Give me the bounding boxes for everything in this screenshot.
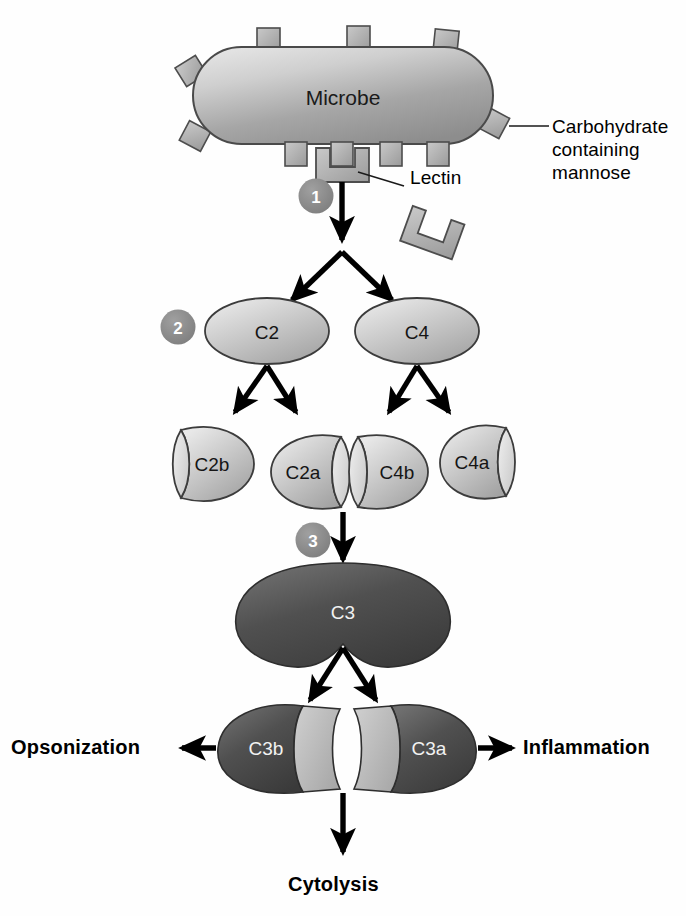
step-badge-1-label: 1: [311, 188, 320, 207]
c3-label: C3: [331, 602, 355, 623]
lectin-callout-label: Lectin: [410, 166, 461, 189]
fork-arrow-left: [292, 252, 342, 300]
c2b-group: C2b: [173, 427, 254, 501]
step-badge-3: 3: [296, 523, 331, 558]
lectin-free-shape: [400, 206, 464, 260]
carbohydrate-peg: [285, 142, 307, 166]
carbohydrate-callout-line2: containing: [552, 138, 640, 161]
cleavage-arrows: [235, 366, 449, 412]
c4-cleave-arrow-right: [417, 366, 449, 412]
step-badge-1: 1: [299, 179, 334, 214]
c3b-group: C3b: [218, 705, 340, 793]
c2-label: C2: [255, 322, 279, 343]
c4a-cut-face: [498, 428, 515, 496]
lectin-free-group: [400, 206, 464, 260]
step-badge-2: 2: [161, 310, 196, 345]
c4-label: C4: [405, 322, 430, 343]
c2-group: C2: [205, 298, 329, 364]
c2-cleave-arrow-left: [235, 366, 267, 412]
c2a-label: C2a: [286, 462, 321, 483]
c3a-group: C3a: [354, 705, 476, 793]
cytolysis-label: Cytolysis: [288, 873, 379, 896]
c3b-cut-face: [294, 706, 340, 792]
carbohydrate-peg: [427, 142, 449, 166]
inflammation-label: Inflammation: [523, 736, 650, 759]
carbohydrate-callout-line1: Carbohydrate: [552, 115, 668, 138]
diagram-canvas: Microbe 1: [0, 0, 686, 916]
microbe-group: Microbe: [175, 26, 510, 166]
c2a-group: C2a: [271, 435, 350, 509]
c4-group: C4: [355, 298, 479, 364]
c3a-cut-face: [354, 706, 400, 792]
carbohydrate-callout-line3: mannose: [552, 161, 631, 184]
c3a-label: C3a: [412, 738, 447, 759]
c4-cleave-arrow-left: [389, 366, 417, 412]
c2b-label: C2b: [195, 454, 230, 475]
c4a-group: C4a: [440, 426, 515, 499]
c2-cleave-arrow-right: [267, 366, 296, 412]
c3b-label: C3b: [249, 738, 284, 759]
opsonization-label: Opsonization: [11, 736, 140, 759]
step-badge-2-label: 2: [173, 319, 182, 338]
microbe-label: Microbe: [306, 86, 381, 109]
carbohydrate-peg: [380, 142, 402, 166]
c4a-label: C4a: [455, 452, 490, 473]
carbohydrate-peg-bound: [331, 142, 353, 166]
c4b-group: C4b: [349, 435, 428, 509]
c4b-label: C4b: [380, 462, 415, 483]
step-badge-3-label: 3: [308, 532, 317, 551]
fork-arrow-right: [342, 252, 392, 300]
